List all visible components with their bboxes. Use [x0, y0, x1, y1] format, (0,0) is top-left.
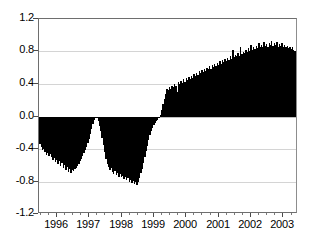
x-minor-tick-mark: [226, 213, 227, 215]
x-minor-tick-mark: [169, 213, 170, 215]
x-minor-tick-mark: [72, 213, 73, 215]
y-tick-label: -1.2: [0, 207, 34, 218]
x-minor-tick-mark: [129, 213, 130, 215]
y-tick-label: 1.2: [0, 12, 34, 23]
x-minor-tick-mark: [145, 213, 146, 215]
x-tick-mark: [282, 213, 283, 217]
x-minor-tick-mark: [137, 213, 138, 215]
y-tick-label: 0.0: [0, 110, 34, 121]
x-minor-tick-mark: [274, 213, 275, 215]
y-tick-label: 0.8: [0, 44, 34, 55]
y-tick-label: -0.8: [0, 175, 34, 186]
y-tick-mark: [33, 50, 38, 51]
x-tick-mark: [88, 213, 89, 217]
y-tick-mark: [33, 83, 38, 84]
bar-series: [39, 19, 296, 212]
x-minor-tick-mark: [258, 213, 259, 215]
bar: [296, 52, 297, 117]
x-minor-tick-mark: [40, 213, 41, 215]
y-tick-mark: [33, 181, 38, 182]
x-minor-tick-mark: [291, 213, 292, 215]
y-tick-mark: [33, 18, 38, 19]
x-tick-mark: [218, 213, 219, 217]
x-minor-tick-mark: [112, 213, 113, 215]
x-tick-mark: [250, 213, 251, 217]
x-tick-mark: [56, 213, 57, 217]
x-minor-tick-mark: [177, 213, 178, 215]
x-minor-tick-mark: [234, 213, 235, 215]
y-tick-mark: [33, 116, 38, 117]
x-minor-tick-mark: [266, 213, 267, 215]
x-tick-mark: [185, 213, 186, 217]
x-tick-mark: [153, 213, 154, 217]
x-minor-tick-mark: [48, 213, 49, 215]
x-minor-tick-mark: [201, 213, 202, 215]
x-tick-mark: [121, 213, 122, 217]
x-minor-tick-mark: [104, 213, 105, 215]
x-minor-tick-mark: [242, 213, 243, 215]
y-tick-mark: [33, 213, 38, 214]
y-tick-mark: [33, 148, 38, 149]
plot-area: [38, 18, 297, 213]
x-tick-label: 2003: [262, 219, 302, 230]
x-minor-tick-mark: [96, 213, 97, 215]
x-minor-tick-mark: [80, 213, 81, 215]
x-minor-tick-mark: [64, 213, 65, 215]
bar: [158, 117, 159, 119]
chart-container: 1.20.80.40.0-0.4-0.8-1.2 199619971998199…: [0, 0, 318, 247]
x-minor-tick-mark: [193, 213, 194, 215]
x-minor-tick-mark: [161, 213, 162, 215]
y-tick-label: 0.4: [0, 77, 34, 88]
x-minor-tick-mark: [210, 213, 211, 215]
y-tick-label: -0.4: [0, 142, 34, 153]
